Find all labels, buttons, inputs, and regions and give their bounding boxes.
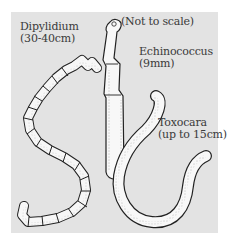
label-toxocara: Toxocara (up to 15cm)	[158, 117, 227, 141]
note-not-to-scale: (Not to scale)	[121, 16, 194, 28]
dipylidium-worm	[22, 60, 98, 227]
toxocara-size: (up to 15cm)	[158, 129, 227, 141]
label-echinococcus: Echinococcus (9mm)	[139, 46, 213, 70]
echinococcus-size: (9mm)	[139, 58, 213, 70]
label-dipylidium: Dipylidium (30-40cm)	[20, 21, 79, 45]
dipylidium-size: (30-40cm)	[20, 33, 79, 45]
